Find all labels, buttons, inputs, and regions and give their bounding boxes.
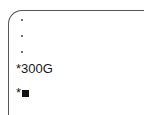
line-value: 300G: [21, 61, 53, 76]
dot-icon: [21, 51, 23, 53]
black-square-icon: [22, 90, 29, 97]
list-item-square: *: [16, 86, 29, 100]
asterisk-prefix: *: [16, 85, 21, 100]
dot-icon: [21, 19, 23, 21]
dot-icon: [21, 35, 23, 37]
list-item-300g: *300G: [16, 62, 53, 76]
